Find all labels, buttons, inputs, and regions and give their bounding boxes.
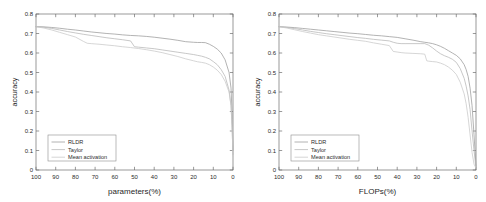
legend-label-0: RLDR: [68, 139, 83, 145]
x-tick-label: 90: [295, 174, 302, 180]
x-tick-label: 80: [315, 174, 322, 180]
legend-label-2: Mean activation: [68, 154, 107, 160]
y-tick-label: 0.6: [25, 50, 34, 56]
params-plot: 100908070605040302010000.10.20.30.40.50.…: [0, 0, 243, 202]
x-tick-label: 10: [210, 174, 217, 180]
x-tick-label: 100: [31, 174, 42, 180]
x-tick-label: 30: [414, 174, 421, 180]
y-tick-label: 0.7: [268, 31, 277, 37]
figure-container: 100908070605040302010000.10.20.30.40.50.…: [0, 0, 486, 202]
y-tick-label: 0.6: [268, 50, 277, 56]
y-tick-label: 0.1: [25, 148, 34, 154]
x-tick-label: 0: [474, 174, 478, 180]
x-axis-label: parameters(%): [108, 187, 161, 196]
y-tick-label: 0: [273, 167, 277, 173]
y-tick-label: 0.8: [268, 11, 277, 17]
y-tick-label: 0.2: [25, 128, 34, 134]
y-axis-label: accuracy: [10, 77, 19, 106]
x-tick-label: 90: [52, 174, 59, 180]
series-line-rldr: [36, 27, 233, 151]
legend-label-2: Mean activation: [311, 154, 350, 160]
y-tick-label: 0.2: [268, 128, 277, 134]
x-tick-label: 100: [274, 174, 285, 180]
x-tick-label: 20: [190, 174, 197, 180]
x-tick-label: 60: [111, 174, 118, 180]
y-tick-label: 0.3: [268, 109, 277, 115]
y-tick-label: 0.7: [25, 31, 34, 37]
x-tick-label: 40: [151, 174, 158, 180]
x-tick-label: 80: [72, 174, 79, 180]
x-tick-label: 70: [335, 174, 342, 180]
x-tick-label: 40: [394, 174, 401, 180]
y-tick-label: 0.4: [268, 89, 277, 95]
y-tick-label: 0: [30, 167, 34, 173]
y-axis-label: accuracy: [253, 77, 262, 106]
x-tick-label: 0: [231, 174, 235, 180]
y-tick-label: 0.1: [268, 148, 277, 154]
flops-plot: 100908070605040302010000.10.20.30.40.50.…: [243, 0, 486, 202]
legend-label-1: Taylor: [68, 147, 83, 153]
legend-label-1: Taylor: [311, 147, 326, 153]
x-tick-label: 10: [453, 174, 460, 180]
flops-panel: 100908070605040302010000.10.20.30.40.50.…: [243, 0, 486, 202]
x-axis-label: FLOPs(%): [359, 187, 397, 196]
x-tick-label: 50: [374, 174, 381, 180]
y-tick-label: 0.5: [25, 70, 34, 76]
x-tick-label: 20: [433, 174, 440, 180]
y-tick-label: 0.4: [25, 89, 34, 95]
x-tick-label: 30: [171, 174, 178, 180]
legend-label-0: RLDR: [311, 139, 326, 145]
params-panel: 100908070605040302010000.10.20.30.40.50.…: [0, 0, 243, 202]
y-tick-label: 0.3: [25, 109, 34, 115]
y-tick-label: 0.8: [25, 11, 34, 17]
y-tick-label: 0.5: [268, 70, 277, 76]
x-tick-label: 70: [92, 174, 99, 180]
x-tick-label: 60: [354, 174, 361, 180]
x-tick-label: 50: [131, 174, 138, 180]
